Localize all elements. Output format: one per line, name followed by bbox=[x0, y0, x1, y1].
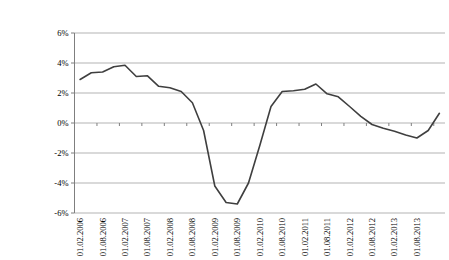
y-axis-label: -6% bbox=[54, 208, 68, 218]
y-axis-label: 6% bbox=[57, 28, 68, 38]
x-axis-label: 01.08.2008 bbox=[187, 218, 197, 256]
x-axis-label: 01.08.2010 bbox=[277, 218, 287, 256]
x-axis-label: 01.02.2010 bbox=[255, 218, 265, 256]
x-axis-label: 01.02.2013 bbox=[389, 218, 399, 256]
x-axis-label: 01.02.2008 bbox=[165, 218, 175, 256]
y-axis-label: 4% bbox=[57, 58, 68, 68]
x-axis-label: 01.08.2006 bbox=[98, 218, 108, 256]
x-axis-label: 01.08.2012 bbox=[367, 218, 377, 256]
x-axis-label: 01.02.2009 bbox=[210, 218, 220, 256]
x-axis-label: 01.02.2012 bbox=[345, 218, 355, 256]
y-axis-label: 0% bbox=[57, 118, 68, 128]
line-chart-figure: 6%4%2%0%-2%-4%-6%01.02.200601.08.200601.… bbox=[40, 16, 449, 260]
x-axis-label: 01.08.2011 bbox=[322, 218, 332, 256]
y-axis-label: 2% bbox=[57, 88, 68, 98]
chart-canvas: 6%4%2%0%-2%-4%-6%01.02.200601.08.200601.… bbox=[40, 16, 449, 260]
x-axis-label: 01.02.2006 bbox=[75, 218, 85, 256]
x-axis-label: 01.02.2011 bbox=[300, 218, 310, 256]
y-axis-label: -2% bbox=[54, 148, 68, 158]
x-axis-label: 01.08.2009 bbox=[232, 218, 242, 256]
x-axis-label: 01.08.2007 bbox=[142, 218, 152, 256]
x-axis-label: 01.08.2013 bbox=[412, 218, 422, 256]
y-axis-label: -4% bbox=[54, 178, 68, 188]
x-axis-label: 01.02.2007 bbox=[120, 218, 130, 256]
